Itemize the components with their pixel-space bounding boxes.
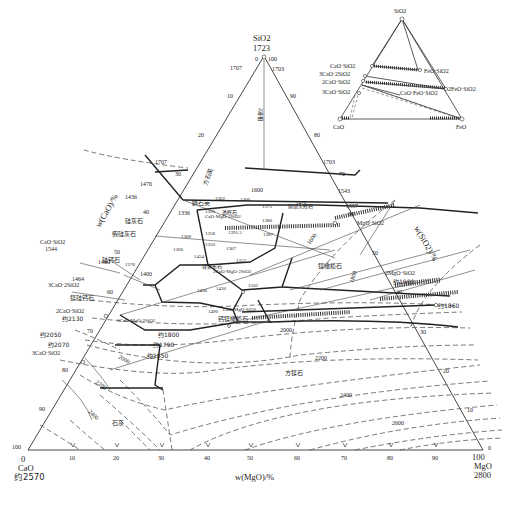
- inset-diagram: SiO2 CaO FeO CaO·SiO2 3CaO·2SiO2 2CaO·Si…: [319, 8, 476, 130]
- tick-bottom-60: 60: [294, 455, 300, 461]
- isotherm-2000-b: 2000: [280, 327, 292, 333]
- inset-cao-sio2: CaO·SiO2: [330, 63, 355, 69]
- temp-mgo-sio2: 1557: [346, 203, 358, 209]
- temp-1790: 约1790: [153, 341, 174, 349]
- temp-top-1703: 1703: [272, 66, 284, 72]
- temp-1436-left: 1436: [125, 194, 137, 200]
- top-tick-labels: 0 100 1707 1703: [230, 56, 284, 72]
- label-3cao-2sio2: 3CaO·2SiO2: [48, 282, 79, 288]
- temp-1454: 1454: [194, 254, 205, 259]
- temp-1350: 1350: [205, 242, 216, 247]
- tick-top-left: 0: [255, 56, 258, 62]
- temp-1368: 1368: [181, 234, 192, 239]
- temp-1470-pt: 1470: [296, 200, 307, 205]
- axis-label-cao: w(CaO)/%: [93, 192, 120, 229]
- temp-1336: 1336: [178, 210, 190, 216]
- isotherm-2600: 2600: [392, 420, 404, 426]
- temp-1376: 1376: [125, 262, 136, 267]
- isotherm-1800: 1800: [348, 270, 358, 283]
- region-akermanite: 镁黄长石: [202, 263, 222, 270]
- phase-region-labels: 方石英 鳞石英 硅灰石 假硅灰石 硅钙石 镁硅钙石 透辉石 镁黄长石 原顽火辉石…: [70, 108, 342, 427]
- temp-top-1707: 1707: [230, 65, 242, 71]
- inset-feo-sio2: FeO·SiO2: [424, 68, 449, 74]
- temp-1490: 1490: [208, 309, 219, 314]
- temp-1502: 1502: [248, 283, 259, 288]
- temp-1400-a: 1400: [240, 197, 251, 202]
- tick-left-30: 30: [175, 171, 181, 177]
- isotherm-2200-b: 2200: [315, 355, 327, 361]
- tick-left-90: 90: [39, 406, 45, 412]
- tick-right-10: 10: [467, 407, 473, 413]
- main-triangle: [28, 56, 483, 450]
- temp-1358: 1358: [205, 231, 216, 236]
- tick-right-40: 40: [396, 289, 402, 295]
- temp-1360: 1360: [173, 247, 184, 252]
- inset-vertex-feo: FeO: [456, 124, 467, 130]
- tick-left-60: 60: [107, 289, 113, 295]
- tick-right-80: 80: [314, 132, 320, 138]
- label-cao-sio2: CaO·SiO2: [40, 239, 65, 245]
- inset-2feo-sio2: 2FeO·SiO2: [448, 86, 476, 92]
- tick-bottom-20: 20: [113, 455, 119, 461]
- isotherm-2400-a: 2400: [87, 408, 100, 421]
- tick-left-20: 20: [198, 132, 204, 138]
- phase-diagram: SiO2 1723 0 CaO 约2570 100 MgO 2800 0 100…: [0, 0, 509, 505]
- temp-3cao-sio2: 约2070: [48, 341, 69, 349]
- tick-bottom-90: 90: [432, 455, 438, 461]
- temp-1470-left: 1470: [140, 181, 152, 187]
- temp-1430: 1430: [216, 286, 227, 291]
- region-two-liquid: 2液相: [257, 108, 264, 121]
- isotherm-1600-a: 1600: [251, 187, 263, 193]
- isotherm-2400-b: 2400: [340, 392, 352, 398]
- inset-3cao-sio2: 3CaO·SiO2: [322, 89, 350, 95]
- label-2mgo-sio2: 2MgO·SiO2: [385, 270, 415, 276]
- region-lime: 石灰: [112, 419, 124, 427]
- temp-1380: 1380: [262, 218, 273, 223]
- vertex-mgo-temp: 2800: [474, 470, 491, 480]
- temp-1703-right: 1703: [323, 159, 335, 165]
- temp-1387: 1387: [263, 232, 274, 237]
- tick-bottom-70: 70: [341, 455, 347, 461]
- axis-label-mgo: w(MgO)/%: [235, 472, 274, 482]
- region-cristobalite: 方石英: [201, 167, 215, 187]
- region-tridymite: 鳞石英: [192, 199, 210, 207]
- label-3cao-sio2: 3CaO·SiO2: [32, 350, 60, 356]
- inset-vertex-cao: CaO: [333, 124, 345, 130]
- region-pseudowollastonite: 假硅灰石: [112, 230, 136, 238]
- tick-right-70: 70: [339, 171, 345, 177]
- region-periclase: 方镁石: [285, 369, 303, 377]
- isotherm-2200-a: 2200: [94, 379, 107, 391]
- region-diopside: 透辉石: [222, 209, 237, 216]
- vertex-labels: SiO2 1723 0 CaO 约2570 100 MgO 2800: [14, 33, 492, 482]
- region-merwinite: 镁硅钙石: [70, 294, 94, 302]
- tick-left-70: 70: [87, 328, 93, 334]
- tie-lines: [62, 60, 475, 420]
- region-wollastonite: 硅灰石: [125, 217, 143, 225]
- vertex-sio2-temp: 1723: [253, 43, 270, 53]
- tick-right-0: 0: [488, 445, 491, 451]
- tick-right-60: 60: [348, 211, 354, 217]
- tick-bottom-80: 80: [387, 455, 393, 461]
- temp-1860: 约1860: [438, 302, 459, 310]
- axis-label-sio2: w(SiO2)/%: [412, 224, 440, 263]
- temp-1543: 1543: [338, 188, 350, 194]
- label-2cao-sio2: 2CaO·SiO2: [56, 308, 84, 314]
- vertex-cao-temp: 约2570: [14, 472, 45, 482]
- tick-bottom-10: 10: [69, 455, 75, 461]
- tick-right-30: 30: [420, 329, 426, 335]
- tick-bottom-50: 50: [247, 455, 253, 461]
- tick-left-50: 50: [114, 249, 120, 255]
- temp-1800: 约1800: [158, 331, 179, 339]
- temp-1400-b: 1400: [140, 271, 152, 277]
- inset-cao-feo-sio2: CaO·FeO·SiO2: [400, 90, 438, 96]
- temp-1850: 约1850: [147, 352, 168, 360]
- tick-left-100: 100: [12, 444, 21, 450]
- temp-1391-5: 1391.5: [228, 230, 242, 235]
- region-monticellite: 钙镁橄榄石: [218, 315, 248, 323]
- temp-2050: 约2050: [40, 331, 61, 339]
- isotherm-2000-a: 2000: [118, 354, 131, 365]
- left-axis-labels: 10 20 30 40 50 60 70 80 90 100 w(CaO)/%: [12, 93, 233, 450]
- temp-1320: 1320: [205, 209, 216, 214]
- bottom-axis-labels: 10 20 30 40 50 60 70 80 90 w(MgO)/%: [69, 455, 438, 482]
- temp-1460: 1460: [98, 259, 110, 265]
